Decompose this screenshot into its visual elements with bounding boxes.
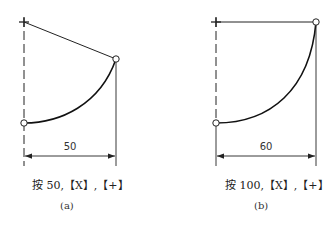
endpoint-circle-top-b (313, 19, 319, 25)
sublabel-a: (a) (60, 200, 74, 211)
caption-b: 按 100,【X】,【+】 (225, 176, 329, 192)
dimension-label-a: 50 (64, 141, 77, 152)
dimension-label-b: 60 (260, 141, 273, 152)
arc-curve-a (24, 59, 116, 123)
chord-line-a (24, 22, 116, 59)
endpoint-circle-top-a (113, 56, 119, 62)
arc-curve-b (216, 22, 316, 123)
figure-b: 60 (211, 17, 319, 166)
endpoint-circle-bottom-b (213, 120, 219, 126)
caption-a: 按 50,【X】,【+】 (32, 176, 129, 192)
figure-a: 50 (19, 17, 119, 166)
sublabel-b: (b) (254, 200, 268, 211)
endpoint-circle-bottom-a (21, 120, 27, 126)
